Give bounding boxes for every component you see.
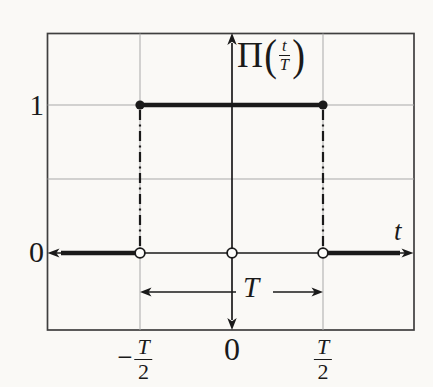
plot-frame	[48, 34, 415, 331]
minus-sign: −	[117, 344, 132, 371]
title-close-paren: )	[292, 37, 305, 73]
pos-tick-numerator: T	[314, 335, 332, 360]
title-fraction-numerator: t	[279, 37, 290, 56]
x-tick-neg-half-T: − T 2	[117, 335, 152, 383]
title-fraction: t T	[279, 37, 290, 74]
x-axis-label: t	[394, 218, 402, 245]
width-annotation-label: T	[243, 273, 259, 302]
neg-tick-fraction: T 2	[134, 335, 152, 383]
title-fraction-denominator: T	[280, 56, 289, 73]
open-point-neg-half-T	[135, 248, 145, 258]
figure-canvas	[0, 0, 433, 387]
filled-point-neg-half-T	[135, 100, 144, 109]
neg-tick-denominator: 2	[138, 360, 149, 383]
x-tick-pos-half-T: T 2	[314, 335, 332, 383]
pi-symbol: Π	[237, 39, 263, 71]
y-tick-one: 1	[16, 91, 44, 120]
neg-tick-numerator: T	[134, 335, 152, 360]
y-tick-zero: 0	[16, 237, 44, 267]
x-tick-zero: 0	[224, 333, 240, 365]
open-point-pos-half-T	[318, 248, 328, 258]
title-open-paren: (	[264, 37, 277, 73]
pos-tick-denominator: 2	[318, 360, 329, 383]
figure-page: { "figure": { "title": {"pi": "Π", "open…	[0, 0, 433, 387]
pos-tick-fraction: T 2	[314, 335, 332, 383]
open-point-origin	[227, 248, 237, 258]
function-title: Π ( t T )	[237, 37, 306, 74]
filled-point-pos-half-T	[318, 100, 327, 109]
